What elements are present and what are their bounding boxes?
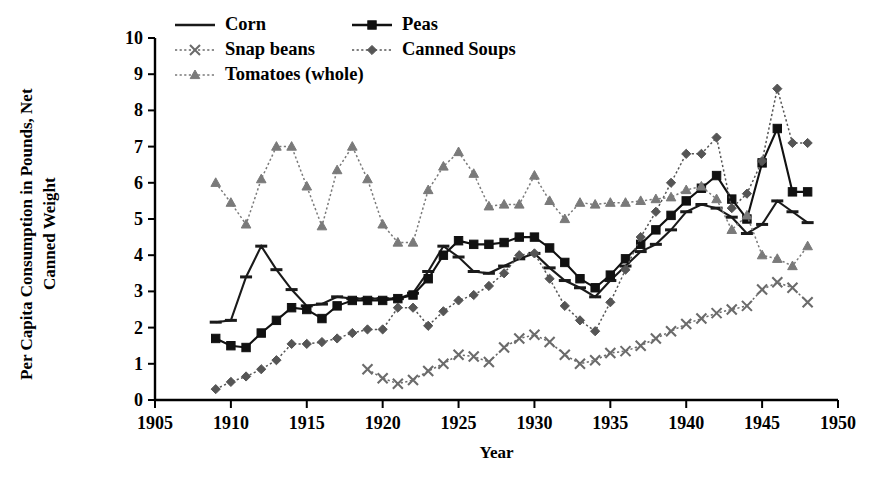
data-point-triangle (757, 250, 767, 259)
data-point-square (728, 195, 736, 203)
data-point-diamond (257, 365, 266, 374)
data-point-diamond (363, 325, 372, 334)
data-point-diamond (484, 281, 493, 290)
data-point-square (409, 291, 417, 299)
x-tick-label: 1930 (516, 413, 552, 433)
legend-item-label: Corn (225, 14, 267, 34)
data-point-x (590, 355, 600, 365)
data-point-x (575, 359, 585, 369)
data-point-triangle (287, 142, 297, 151)
series-line (216, 201, 808, 322)
data-point-x (560, 350, 570, 360)
y-tick-label: 5 (134, 209, 143, 229)
legend-item-label: Canned Soups (402, 39, 516, 59)
data-point-diamond (424, 321, 433, 330)
data-point-diamond (302, 339, 311, 348)
data-point-x (438, 359, 448, 369)
legend-item-corn: Corn (175, 14, 267, 34)
data-point-square (545, 244, 553, 252)
data-point-triangle (666, 192, 676, 201)
data-point-x (469, 352, 479, 362)
legend-item-label: Snap beans (225, 39, 315, 59)
data-point-square (485, 240, 493, 248)
data-point-square (788, 188, 796, 196)
data-point-diamond (788, 138, 797, 147)
data-point-triangle (712, 194, 722, 203)
data-point-square (591, 284, 599, 292)
data-point-x (727, 305, 737, 315)
data-point-x (772, 277, 782, 287)
data-point-triangle (211, 178, 221, 187)
data-point-diamond (560, 301, 569, 310)
data-point-diamond (682, 149, 691, 158)
data-point-x (393, 379, 403, 389)
data-point-square (212, 334, 220, 342)
y-axis-title-line2: Canned Weight (40, 177, 59, 290)
x-tick-label: 1920 (365, 413, 401, 433)
data-point-square (363, 296, 371, 304)
data-point-triangle (302, 181, 312, 190)
chart-figure: 0123456789101905191019151920192519301935… (0, 0, 869, 482)
data-point-x (742, 301, 752, 311)
data-point-square (606, 271, 614, 279)
legend-item-tomatoes-whole: Tomatoes (whole) (175, 64, 364, 85)
data-point-x (666, 326, 676, 336)
data-point-triangle (332, 165, 342, 174)
y-axis-title: Per Capita Consumption in Pounds, Net (17, 88, 36, 380)
y-tick-label: 6 (134, 173, 143, 193)
data-point-x (545, 337, 555, 347)
data-point-x (696, 314, 706, 324)
chart-canvas: 0123456789101905191019151920192519301935… (0, 0, 869, 482)
data-point-square (561, 258, 569, 266)
data-point-square (682, 197, 690, 205)
legend-item-snap-beans: Snap beans (175, 39, 315, 59)
series-snap-beans (362, 277, 812, 388)
data-point-x (499, 343, 509, 353)
data-point-square (318, 314, 326, 322)
data-point-triangle (454, 147, 464, 156)
data-point-diamond (241, 372, 250, 381)
axis-layer: 0123456789101905191019151920192519301935… (125, 28, 856, 433)
data-point-diamond (454, 296, 463, 305)
chart-legend: CornPeasSnap beansCanned SoupsTomatoes (… (175, 14, 516, 85)
data-point-diamond (469, 290, 478, 299)
data-point-triangle (514, 200, 524, 209)
data-point-triangle (636, 196, 646, 205)
y-tick-label: 8 (134, 100, 143, 120)
data-point-x (423, 366, 433, 376)
data-point-square (515, 233, 523, 241)
data-point-square (803, 188, 811, 196)
data-point-diamond (712, 133, 721, 142)
data-point-square (272, 316, 280, 324)
axis-frame (155, 38, 838, 400)
y-tick-label: 1 (134, 354, 143, 374)
data-point-square (439, 251, 447, 259)
data-point-square (242, 343, 250, 351)
data-point-square (773, 124, 781, 132)
data-point-x (408, 375, 418, 385)
data-point-triangle (423, 185, 433, 194)
data-point-square (368, 21, 376, 29)
data-point-diamond (367, 45, 376, 54)
data-point-triangle (348, 142, 358, 151)
x-tick-label: 1940 (668, 413, 704, 433)
data-point-x (803, 297, 813, 307)
data-point-square (227, 342, 235, 350)
data-point-square (378, 296, 386, 304)
data-point-square (257, 329, 265, 337)
data-point-diamond (378, 325, 387, 334)
data-point-x (712, 308, 722, 318)
y-tick-label: 3 (134, 281, 143, 301)
data-point-diamond (651, 207, 660, 216)
data-point-triangle (499, 200, 509, 209)
data-point-diamond (408, 303, 417, 312)
y-tick-label: 10 (125, 28, 143, 48)
data-point-square (333, 302, 341, 310)
data-point-square (576, 275, 584, 283)
data-point-diamond (226, 377, 235, 386)
x-tick-label: 1910 (213, 413, 249, 433)
data-point-diamond (211, 385, 220, 394)
data-point-square (454, 237, 462, 245)
x-tick-label: 1925 (441, 413, 477, 433)
y-tick-label: 0 (134, 390, 143, 410)
